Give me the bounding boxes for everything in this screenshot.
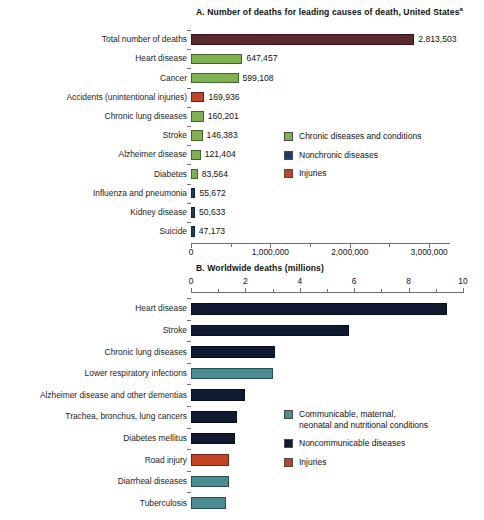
panel-b-tick bbox=[245, 288, 246, 292]
bar bbox=[191, 34, 414, 45]
category-tick bbox=[187, 449, 191, 450]
legend-swatch-icon bbox=[284, 458, 293, 467]
category-tick bbox=[187, 203, 191, 204]
panel-a-legend: Chronic diseases and conditionsNonchroni… bbox=[284, 131, 421, 187]
bar bbox=[191, 325, 349, 337]
panel-b-tick bbox=[381, 289, 382, 292]
legend-swatch-icon bbox=[284, 151, 293, 160]
legend-swatch-icon bbox=[284, 169, 293, 178]
bar bbox=[191, 368, 273, 380]
panel-a-tick-label: 3,000,000 bbox=[379, 248, 479, 256]
bar-value-label: 146,383 bbox=[207, 131, 238, 140]
legend-label: Chronic diseases and conditions bbox=[299, 131, 421, 142]
bar bbox=[191, 411, 237, 423]
legend-label: Nonchronic diseases bbox=[299, 150, 421, 161]
chart-panel-a: A. Number of deaths for leading causes o… bbox=[0, 0, 484, 258]
bar bbox=[191, 454, 229, 466]
panel-b-tick bbox=[191, 288, 192, 292]
panel-a-title-text: A. Number of deaths for leading causes o… bbox=[196, 7, 460, 17]
bar bbox=[191, 226, 195, 237]
bar-value-label: 83,564 bbox=[202, 170, 228, 179]
legend-swatch-icon bbox=[284, 132, 293, 141]
panel-b-axis-line bbox=[191, 292, 464, 293]
category-label: Lower respiratory infections bbox=[0, 369, 187, 377]
panel-b-tick bbox=[300, 288, 301, 292]
category-tick bbox=[187, 88, 191, 89]
bar bbox=[191, 497, 226, 509]
bar bbox=[191, 476, 229, 488]
category-label: Cancer bbox=[0, 74, 187, 82]
category-tick bbox=[187, 164, 191, 165]
panel-b-legend: Communicable, maternal, neonatal and nut… bbox=[284, 409, 428, 475]
legend-swatch-icon bbox=[284, 439, 293, 448]
category-tick bbox=[187, 320, 191, 321]
legend-item: Noncommunicable diseases bbox=[284, 438, 428, 449]
category-tick bbox=[187, 341, 191, 342]
category-label: Stroke bbox=[0, 131, 187, 139]
bar bbox=[191, 54, 242, 65]
legend-item: Nonchronic diseases bbox=[284, 150, 421, 161]
panel-b-tick bbox=[436, 289, 437, 292]
legend-label: Communicable, maternal, neonatal and nut… bbox=[299, 409, 428, 430]
panel-b-tick bbox=[463, 288, 464, 292]
bar bbox=[191, 346, 275, 358]
panel-b-title-text: B. Worldwide deaths (millions) bbox=[196, 263, 324, 273]
bar-value-label: 2,813,503 bbox=[418, 35, 456, 44]
bar-value-label: 169,936 bbox=[208, 93, 239, 102]
panel-b-tick-label: 10 bbox=[413, 277, 484, 285]
legend-item: Chronic diseases and conditions bbox=[284, 131, 421, 142]
legend-label: Noncommunicable diseases bbox=[299, 438, 428, 449]
bar bbox=[191, 303, 447, 315]
category-label: Heart disease bbox=[0, 304, 187, 312]
category-tick bbox=[187, 145, 191, 146]
panel-a-tick bbox=[310, 244, 311, 247]
legend-item: Injuries bbox=[284, 168, 421, 179]
bar-value-label: 160,201 bbox=[208, 112, 239, 121]
legend-label: Injuries bbox=[299, 457, 428, 468]
bar bbox=[191, 433, 235, 445]
bar bbox=[191, 73, 239, 84]
category-tick bbox=[187, 406, 191, 407]
bar bbox=[191, 207, 195, 218]
category-label: Suicide bbox=[0, 227, 187, 235]
panel-b-tick bbox=[354, 288, 355, 292]
legend-item: Injuries bbox=[284, 457, 428, 468]
category-label: Chronic lung diseases bbox=[0, 112, 187, 120]
panel-b-tick bbox=[409, 288, 410, 292]
panel-a-tick bbox=[389, 244, 390, 247]
category-label: Chronic lung diseases bbox=[0, 348, 187, 356]
category-label: Alzheimer disease and other dementias bbox=[0, 391, 187, 399]
category-label: Kidney disease bbox=[0, 208, 187, 216]
bar-value-label: 599,108 bbox=[243, 74, 274, 83]
panel-b-tick bbox=[327, 289, 328, 292]
category-tick bbox=[187, 384, 191, 385]
category-label: Diabetes mellitus bbox=[0, 434, 187, 442]
legend-item: Communicable, maternal, neonatal and nut… bbox=[284, 409, 428, 430]
category-tick bbox=[187, 222, 191, 223]
legend-swatch-icon bbox=[284, 410, 293, 419]
bar-value-label: 47,173 bbox=[199, 227, 225, 236]
category-label: Diarrheal diseases bbox=[0, 477, 187, 485]
category-tick bbox=[187, 363, 191, 364]
panel-b-title: B. Worldwide deaths (millions) bbox=[196, 263, 324, 273]
category-tick bbox=[187, 492, 191, 493]
category-tick bbox=[187, 107, 191, 108]
category-label: Heart disease bbox=[0, 54, 187, 62]
category-label: Stroke bbox=[0, 326, 187, 334]
category-tick bbox=[187, 68, 191, 69]
bar-value-label: 121,404 bbox=[205, 150, 236, 159]
bar-value-label: 50,633 bbox=[199, 208, 225, 217]
category-tick bbox=[187, 471, 191, 472]
category-tick bbox=[187, 428, 191, 429]
category-label: Total number of deaths bbox=[0, 35, 187, 43]
bar bbox=[191, 169, 198, 180]
bar-value-label: 55,672 bbox=[199, 189, 225, 198]
bar bbox=[191, 188, 195, 199]
category-label: Road injury bbox=[0, 456, 187, 464]
category-tick bbox=[187, 298, 191, 299]
bar bbox=[191, 389, 245, 401]
category-tick bbox=[187, 184, 191, 185]
category-label: Influenza and pneumonia bbox=[0, 189, 187, 197]
bar-value-label: 647,457 bbox=[246, 54, 277, 63]
bar bbox=[191, 150, 201, 161]
